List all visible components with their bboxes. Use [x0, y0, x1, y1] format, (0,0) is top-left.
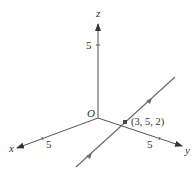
diagram-canvas: z 5 O x 5 (3, 5, 2) 5 y	[0, 0, 196, 182]
point-marker	[123, 120, 127, 124]
y-tick-label: 5	[147, 139, 153, 150]
x-axis-label: x	[9, 143, 14, 154]
z-axis-label: z	[96, 8, 100, 19]
origin-label: O	[87, 108, 95, 119]
line-arrow-lower	[86, 153, 92, 159]
axes-graphic	[0, 0, 196, 182]
z-tick-label: 5	[86, 40, 92, 51]
y-tick-5	[159, 137, 160, 140]
x-axis	[17, 118, 98, 148]
point-label: (3, 5, 2)	[131, 117, 164, 128]
x-tick-5	[42, 137, 43, 140]
x-tick-label: 5	[46, 139, 52, 150]
y-axis-label: y	[185, 145, 190, 156]
